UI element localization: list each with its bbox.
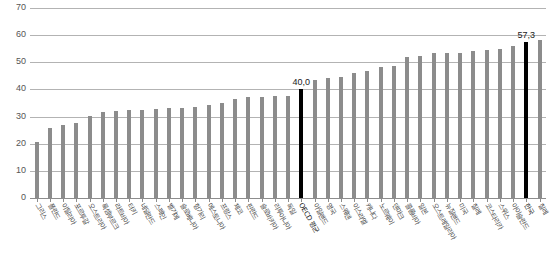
bar-slot	[454, 8, 467, 198]
bar	[405, 57, 409, 198]
x-label-slot: 포르투갈	[70, 202, 83, 275]
bar-series: 40,057,3	[30, 8, 546, 198]
x-label-slot: 영국	[321, 202, 334, 275]
bar	[485, 50, 489, 198]
bar	[273, 96, 277, 198]
category-label: 칠레	[535, 202, 547, 216]
bar-slot	[268, 8, 281, 198]
bar-slot	[281, 8, 294, 198]
bar	[127, 110, 131, 198]
bar-slot	[109, 8, 122, 198]
x-label-slot: 에스토니아	[202, 202, 215, 275]
bar-slot	[255, 8, 268, 198]
bar-slot	[427, 8, 440, 198]
bar-slot	[189, 8, 202, 198]
bar	[313, 80, 317, 198]
x-label-slot: 체코	[229, 202, 242, 275]
bar	[339, 77, 343, 198]
bar	[74, 123, 78, 198]
bar-slot	[96, 8, 109, 198]
x-label-slot: 캐나다	[361, 202, 374, 275]
x-label-slot: 슬로바키아	[255, 202, 268, 275]
bar-slot	[136, 8, 149, 198]
y-axis-tick-label: 70	[0, 3, 26, 12]
bar	[35, 142, 39, 198]
bar-slot	[229, 8, 242, 198]
x-axis-labels: 그리스폴란드이탈리아포르투갈오스트리아룩셈부르크라트비아터키네덜란드스페인벨기에…	[30, 202, 546, 275]
x-label-slot: OECD 평균	[295, 202, 308, 275]
y-axis-tick-label: 50	[0, 57, 26, 66]
bar	[445, 53, 449, 198]
x-label-slot: 헝가리	[189, 202, 202, 275]
bar-slot	[149, 8, 162, 198]
x-label-slot: 아일랜드	[308, 202, 321, 275]
bar-slot	[308, 8, 321, 198]
bar-slot: 40,0	[295, 8, 308, 198]
bar-slot	[361, 8, 374, 198]
y-axis-tick-label: 0	[0, 193, 26, 202]
bar	[286, 96, 290, 198]
bar-slot	[533, 8, 546, 198]
bar-slot	[493, 8, 506, 198]
bar-slot	[334, 8, 347, 198]
bar	[379, 67, 383, 198]
bar	[207, 105, 211, 198]
bar-slot: 57,3	[520, 8, 533, 198]
x-label-slot: 한국	[520, 202, 533, 275]
bar-slot	[374, 8, 387, 198]
x-label-slot: 네덜란드	[136, 202, 149, 275]
bar-slot	[440, 8, 453, 198]
bar	[154, 109, 158, 198]
x-label-slot: 아이슬란드	[506, 202, 519, 275]
x-label-slot: 스웨덴	[334, 202, 347, 275]
plot-area: 010203040506070 40,057,3	[30, 8, 546, 198]
bar	[88, 116, 92, 198]
bar-chart: 010203040506070 40,057,3 그리스폴란드이탈리아포르투갈오…	[0, 0, 554, 275]
x-label-slot: 터키	[123, 202, 136, 275]
bar-slot	[162, 8, 175, 198]
bar	[61, 125, 65, 198]
bar	[432, 53, 436, 198]
bar	[48, 128, 52, 198]
bar	[458, 53, 462, 198]
x-label-slot: 칠레	[533, 202, 546, 275]
bar-slot	[414, 8, 427, 198]
y-axis-tick-label: 20	[0, 139, 26, 148]
bar	[220, 103, 224, 198]
x-label-slot: 독일	[281, 202, 294, 275]
bar-slot	[56, 8, 69, 198]
x-label-slot: 리투아니아	[268, 202, 281, 275]
bar-slot	[480, 8, 493, 198]
bar	[365, 71, 369, 198]
bar-slot	[30, 8, 43, 198]
x-label-slot: 일본	[414, 202, 427, 275]
x-label-slot: 프랑스	[215, 202, 228, 275]
bar-slot	[123, 8, 136, 198]
x-label-slot: 뉴질랜드	[440, 202, 453, 275]
x-label-slot: 미국	[454, 202, 467, 275]
bar	[511, 46, 515, 198]
x-label-slot: 이스라엘	[348, 202, 361, 275]
x-label-slot: 룩셈부르크	[96, 202, 109, 275]
bar	[193, 107, 197, 198]
y-axis-tick-label: 60	[0, 30, 26, 39]
bar-slot	[202, 8, 215, 198]
bar	[140, 110, 144, 198]
bar-slot	[467, 8, 480, 198]
bar-slot	[215, 8, 228, 198]
bar-highlighted	[524, 42, 528, 198]
x-label-slot: 벨기에	[162, 202, 175, 275]
x-label-slot: 코스타리카	[480, 202, 493, 275]
bar	[471, 51, 475, 198]
x-label-slot: 콜롬비아	[401, 202, 414, 275]
bar-slot	[242, 8, 255, 198]
bar-slot	[401, 8, 414, 198]
bar	[233, 99, 237, 198]
x-label-slot: 스페인	[149, 202, 162, 275]
bar	[180, 108, 184, 198]
bar	[538, 40, 542, 198]
x-label-slot: 슬로베니아	[176, 202, 189, 275]
bar	[260, 97, 264, 199]
y-axis-tick-label: 30	[0, 112, 26, 121]
bar	[167, 108, 171, 198]
